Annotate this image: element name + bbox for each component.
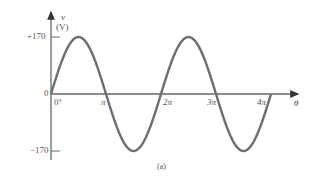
y-tick-label-neg: −170: [30, 145, 49, 155]
x-tick-label-0: 0°: [54, 97, 62, 107]
x-tick-label-4pi: 4π: [257, 97, 266, 107]
y-axis-unit: (V): [56, 22, 69, 32]
y-tick-label-pos: +170: [27, 31, 46, 41]
x-tick-label-pi: π: [101, 97, 106, 107]
x-tick-label-3pi: 3π: [207, 97, 216, 107]
x-tick-label-2pi: 2π: [163, 97, 172, 107]
y-axis-symbol: v: [61, 12, 65, 22]
y-tick-label-zero: 0: [44, 88, 49, 98]
x-axis-label: θ: [294, 98, 298, 108]
figure-caption: (a): [157, 162, 166, 171]
